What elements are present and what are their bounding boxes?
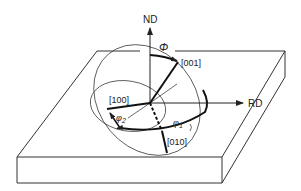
Phi-label: Φ <box>159 41 168 53</box>
label-010: [010] <box>167 137 187 147</box>
sample-plate <box>17 51 285 183</box>
rd-label: RD <box>248 98 262 109</box>
nd-label: ND <box>143 14 157 25</box>
plate-front-face <box>17 157 222 183</box>
label-100: [100] <box>109 95 129 105</box>
label-001: [001] <box>181 58 201 68</box>
euler-angle-diagram: ND RD Φ [001] [100] [010] φ2 φ1 <box>0 0 301 191</box>
